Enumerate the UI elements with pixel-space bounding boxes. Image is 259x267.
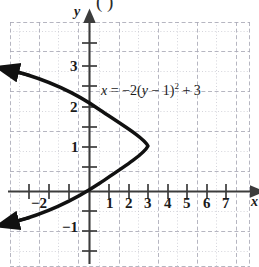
x-tick-label-5: 5: [183, 196, 191, 211]
x-tick-label-3: 3: [144, 196, 152, 211]
grid-minor-lines: [10, 22, 250, 266]
y-tick-label-neg1: −1: [62, 220, 78, 235]
grid-major-lines: [10, 22, 250, 267]
equation-exponent: 2: [174, 81, 179, 91]
y-axis: [82, 21, 97, 264]
graph-figure: y x −2 1 2 3 4 5 6 7 3 2 1 −1 x = −2(y −…: [0, 0, 259, 267]
coordinate-plane-svg: [0, 0, 259, 267]
x-tick-label-6: 6: [203, 196, 211, 211]
x-tick-label-4: 4: [164, 196, 172, 211]
x-axis-label: x: [251, 195, 258, 209]
x-tick-label-neg2: −2: [31, 196, 47, 211]
equation-annotation: x = −2(y − 1)2 + 3: [101, 82, 201, 98]
x-tick-label-1: 1: [106, 196, 114, 211]
y-axis-label: y: [74, 5, 80, 19]
equation-lhs: x: [101, 83, 107, 98]
equation-equals: =: [111, 83, 119, 98]
equation-shift: − 1): [151, 83, 174, 98]
x-tick-label-2: 2: [125, 196, 133, 211]
equation-variable-y: y: [142, 83, 148, 98]
equation-constant: + 3: [182, 83, 200, 98]
y-tick-label-1: 1: [71, 140, 79, 155]
y-tick-label-3: 3: [70, 59, 78, 74]
equation-coefficient: −2(: [122, 83, 142, 98]
x-tick-label-7: 7: [222, 196, 230, 211]
y-tick-label-2: 2: [70, 100, 78, 115]
